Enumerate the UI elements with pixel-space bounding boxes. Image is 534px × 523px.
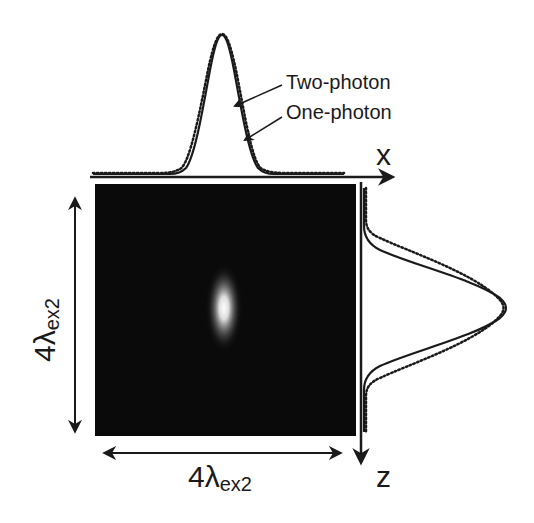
focal-spot xyxy=(205,262,243,354)
horizontal-dimension-label: 4λex2 xyxy=(188,462,252,494)
vertical-dimension-label: 4λex2 xyxy=(30,298,62,362)
z-profile-one-photon xyxy=(366,188,504,432)
leader-one-photon xyxy=(245,117,282,140)
vertical-dimension-subscript: ex2 xyxy=(41,298,63,330)
psf-image xyxy=(95,184,356,436)
horizontal-dimension-prefix: 4λ xyxy=(188,460,220,493)
x-axis-label: x xyxy=(376,140,391,170)
legend-one-photon: One-photon xyxy=(286,102,392,122)
vertical-dimension-prefix: 4λ xyxy=(28,330,61,362)
z-profile-two-photon xyxy=(364,188,506,432)
z-profile xyxy=(364,188,506,432)
z-axis-label: z xyxy=(376,462,391,492)
horizontal-dimension-subscript: ex2 xyxy=(220,473,252,495)
legend-two-photon: Two-photon xyxy=(286,72,391,92)
psf-figure xyxy=(0,0,534,523)
